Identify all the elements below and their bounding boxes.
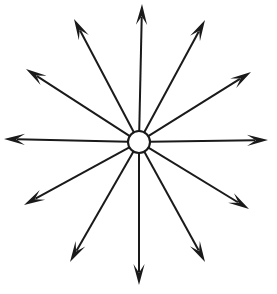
figure-root: Radial arrow starburst Twelve straight a… (0, 0, 277, 294)
starburst-diagram: Radial arrow starburst Twelve straight a… (0, 0, 277, 294)
hub-layer (128, 131, 150, 153)
center-hub-circle (128, 131, 150, 153)
